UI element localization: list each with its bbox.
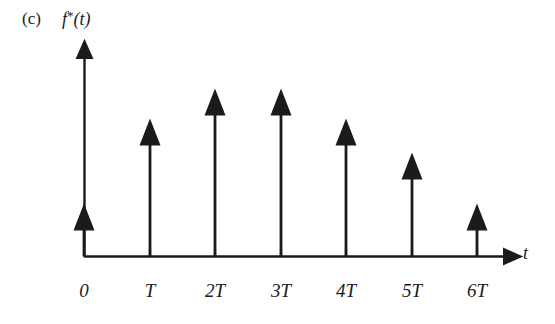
tick-label: 3T — [271, 280, 291, 302]
impulse-arrowhead — [205, 89, 226, 116]
panel-label: (c) — [22, 9, 41, 29]
tick-label: 2T — [205, 280, 225, 302]
impulse-train-figure: (c) f*(t) t 0T2T3T4T5T6T — [0, 0, 555, 324]
impulse-arrows — [74, 89, 488, 257]
tick-label: 5T — [402, 280, 422, 302]
tick-label: 4T — [336, 280, 356, 302]
function-argument: (t) — [74, 9, 91, 29]
impulse-arrowhead — [402, 153, 423, 180]
impulse-arrowhead — [336, 119, 357, 146]
tick-label: 0 — [79, 280, 89, 302]
impulse-arrowhead — [271, 89, 292, 116]
x-axis-variable-label: t — [523, 243, 528, 264]
tick-label: T — [145, 280, 156, 302]
plot-canvas — [0, 0, 555, 324]
function-label: f*(t) — [62, 8, 91, 30]
impulse-arrowhead — [467, 204, 488, 231]
impulse-arrowhead — [74, 204, 95, 231]
tick-label: 6T — [467, 280, 487, 302]
impulse-arrowhead — [140, 119, 161, 146]
